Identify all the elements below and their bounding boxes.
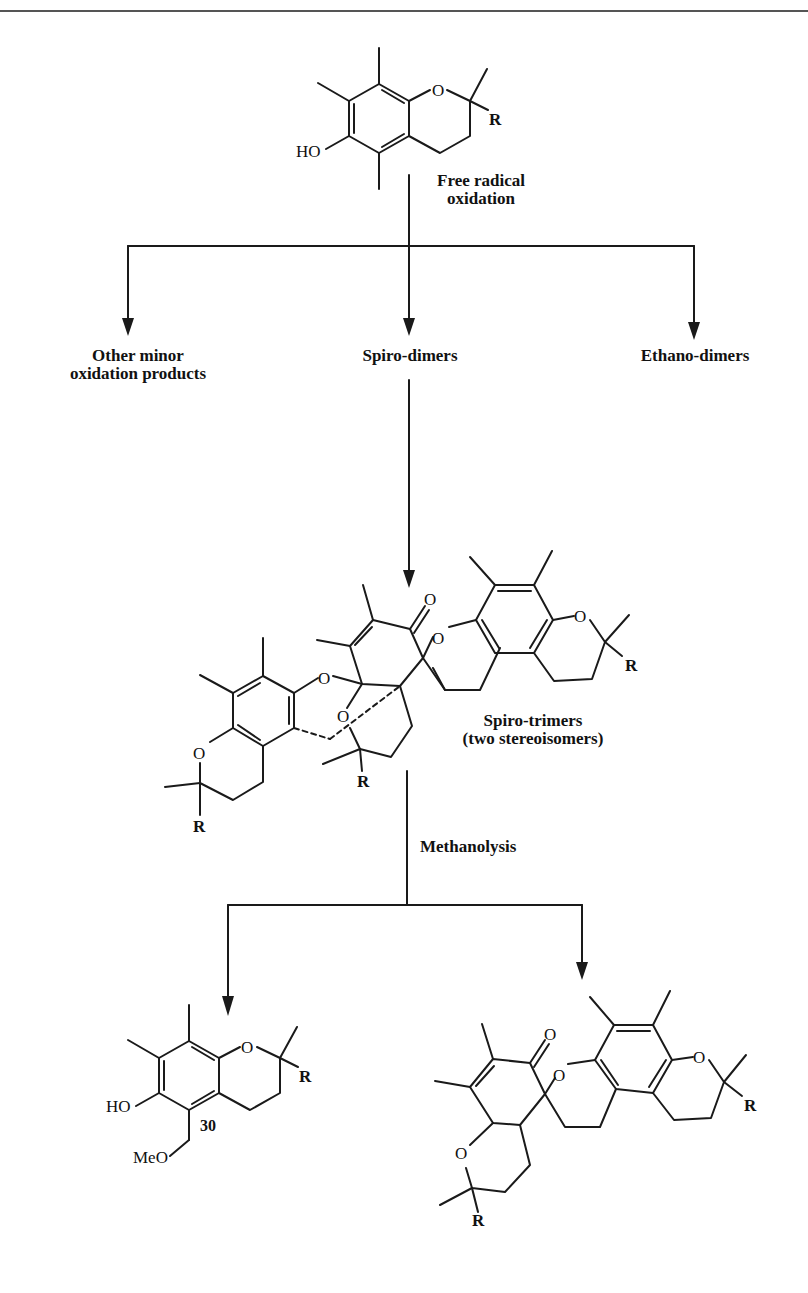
atom-o-left-trimer: O [193, 745, 205, 762]
compound-number-30: 30 [200, 1117, 216, 1135]
starting-material-structure [318, 48, 488, 189]
product-ethano-dimers-label: Ethano-dimers [630, 347, 760, 365]
step1-label: Free radical oxidation [426, 172, 536, 208]
arrow-head-spiro [403, 318, 415, 336]
atom-o-30: O [241, 1039, 253, 1056]
atom-r-right-dimer: R [744, 1097, 756, 1114]
product-dimer-structure [435, 991, 746, 1212]
atom-o-lower-dimer: O [455, 1145, 467, 1162]
atom-r-right-trimer: R [625, 657, 637, 674]
product-minor-line1: Other minor [48, 347, 228, 365]
spiro-trimer-structure [165, 551, 629, 815]
arrow-head-dimer [576, 962, 588, 980]
atom-o-inner-trimer: O [337, 708, 349, 725]
arrow-head-30 [222, 996, 234, 1016]
product-minor-label: Other minor oxidation products [48, 347, 228, 383]
atom-o-spiro-trimer: O [432, 630, 444, 647]
atom-r-left-trimer: R [193, 818, 205, 835]
atom-meo-30: MeO [133, 1149, 168, 1166]
atom-r-mid-trimer: R [357, 773, 369, 790]
product-minor-line2: oxidation products [48, 365, 228, 383]
spiro-trimer-label-line1: Spiro-trimers [448, 712, 618, 730]
step1-label-line2: oxidation [426, 190, 536, 208]
product-spiro-dimers-label: Spiro-dimers [340, 347, 480, 365]
atom-r-lower-dimer: R [472, 1212, 484, 1229]
atom-o-start: O [432, 82, 444, 99]
atom-o-right-dimer: O [693, 1049, 705, 1066]
spiro-trimer-label: Spiro-trimers (two stereoisomers) [448, 712, 618, 748]
atom-o-ketal-trimer: O [318, 670, 330, 687]
arrow-head-minor [122, 318, 134, 336]
step2-label: Methanolysis [420, 838, 540, 856]
atom-o-carbonyl-dimer: O [544, 1026, 556, 1043]
atom-r-start: R [489, 111, 501, 128]
atom-o-spiro-dimer: O [553, 1067, 565, 1084]
atom-ho-start: HO [296, 143, 321, 160]
step1-label-line1: Free radical [426, 172, 536, 190]
atom-ho-30: HO [106, 1098, 131, 1115]
atom-r-30: R [299, 1068, 311, 1085]
spiro-trimer-label-line2: (two stereoisomers) [448, 730, 618, 748]
atom-o-carbonyl-trimer: O [424, 591, 436, 608]
reaction-scheme: O R HO Free radical oxidation Other mino… [0, 0, 808, 1293]
atom-o-right-trimer: O [574, 608, 586, 625]
arrow-head-ethano [688, 322, 700, 340]
